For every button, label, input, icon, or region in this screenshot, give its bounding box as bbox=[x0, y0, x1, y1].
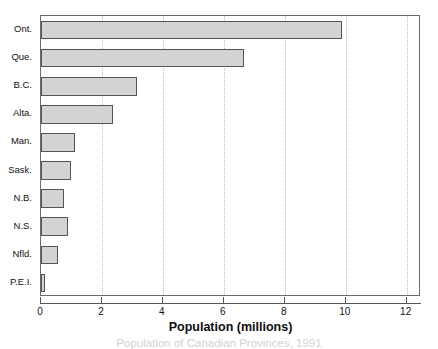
x-axis-title: Population (millions) bbox=[40, 320, 421, 334]
bar-alta bbox=[41, 105, 113, 124]
x-tick-label-2: 2 bbox=[86, 306, 116, 318]
bar-que bbox=[41, 49, 244, 68]
y-axis-label-nfld: Nfld. bbox=[12, 249, 32, 259]
bar-pei bbox=[41, 274, 45, 293]
x-tick-label-6: 6 bbox=[208, 306, 238, 318]
bar-sask bbox=[41, 161, 71, 180]
y-axis-label-nb: N.B. bbox=[14, 193, 32, 203]
x-tick-0 bbox=[40, 297, 41, 303]
x-tick-label-4: 4 bbox=[147, 306, 177, 318]
y-axis-label-alta: Alta. bbox=[13, 108, 32, 118]
x-tick-10 bbox=[345, 297, 346, 303]
bar-row bbox=[41, 246, 421, 265]
bar-series bbox=[41, 16, 419, 295]
x-tick-label-12: 12 bbox=[391, 306, 421, 318]
plot-area bbox=[40, 15, 420, 296]
x-tick-8 bbox=[284, 297, 285, 303]
x-tick-label-0: 0 bbox=[25, 306, 55, 318]
x-tick-2 bbox=[101, 297, 102, 303]
bar-row bbox=[41, 77, 421, 96]
y-axis-category-labels: Ont.Que.B.C.Alta.Man.Sask.N.B.N.S.Nfld.P… bbox=[0, 15, 36, 296]
x-tick-label-10: 10 bbox=[330, 306, 360, 318]
bar-row bbox=[41, 189, 421, 208]
bar-row bbox=[41, 49, 421, 68]
x-tick-label-8: 8 bbox=[269, 306, 299, 318]
bar-row bbox=[41, 21, 421, 40]
y-axis-label-pei: P.E.I. bbox=[10, 277, 32, 287]
y-axis-label-ont: Ont. bbox=[14, 24, 32, 34]
x-axis-line bbox=[40, 303, 421, 304]
bar-row bbox=[41, 133, 421, 152]
y-axis-label-bc: B.C. bbox=[14, 80, 32, 90]
bar-row bbox=[41, 217, 421, 236]
bar-nfld bbox=[41, 246, 58, 265]
bar-man bbox=[41, 133, 75, 152]
y-axis-label-ns: N.S. bbox=[14, 221, 32, 231]
bar-row bbox=[41, 161, 421, 180]
y-axis-label-sask: Sask. bbox=[8, 165, 32, 175]
bar-ns bbox=[41, 217, 68, 236]
y-axis-label-man: Man. bbox=[11, 136, 32, 146]
bar-row bbox=[41, 274, 421, 293]
y-axis-label-que: Que. bbox=[11, 52, 32, 62]
figure-caption: Population of Canadian Provinces, 1991 bbox=[0, 337, 438, 349]
bar-ont bbox=[41, 21, 342, 40]
x-tick-4 bbox=[162, 297, 163, 303]
bar-nb bbox=[41, 189, 64, 208]
x-tick-12 bbox=[406, 297, 407, 303]
bar-row bbox=[41, 105, 421, 124]
bar-bc bbox=[41, 77, 137, 96]
x-tick-6 bbox=[223, 297, 224, 303]
